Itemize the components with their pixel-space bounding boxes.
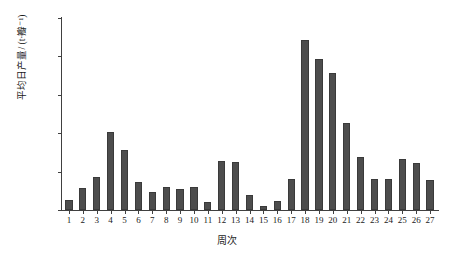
bar	[301, 40, 308, 210]
bar	[218, 161, 225, 210]
x-tick-label: 11	[201, 215, 215, 225]
bar	[329, 73, 336, 210]
x-tick-mark	[152, 211, 153, 214]
bar	[343, 123, 350, 210]
x-tick-mark	[319, 211, 320, 214]
x-axis-title: 周次	[0, 232, 453, 247]
x-tick-mark	[416, 211, 417, 214]
x-tick-label: 3	[90, 215, 104, 225]
x-tick-label: 2	[76, 215, 90, 225]
x-tick-mark	[166, 211, 167, 214]
x-tick-label: 23	[368, 215, 382, 225]
x-tick-mark	[69, 211, 70, 214]
x-tick-mark	[305, 211, 306, 214]
bar	[246, 195, 253, 210]
y-tick-mark	[58, 18, 62, 19]
bar	[426, 180, 433, 210]
bar	[371, 179, 378, 210]
x-tick-label: 14	[243, 215, 257, 225]
x-tick-mark	[194, 211, 195, 214]
bar	[149, 192, 156, 210]
bar	[65, 200, 72, 210]
x-tick-label: 24	[381, 215, 395, 225]
x-tick-label: 10	[187, 215, 201, 225]
bar	[288, 179, 295, 210]
bar	[385, 179, 392, 210]
bar	[176, 189, 183, 210]
x-tick-label: 8	[159, 215, 173, 225]
bar	[232, 162, 239, 210]
bar-chart: 平均日产量/ (t·瓣⁻¹) 0.005.0010.0015.0020.0025…	[0, 0, 453, 254]
x-tick-label: 4	[104, 215, 118, 225]
bar	[79, 188, 86, 210]
x-tick-mark	[250, 211, 251, 214]
x-tick-label: 5	[118, 215, 132, 225]
y-axis-title: 平均日产量/ (t·瓣⁻¹)	[14, 0, 28, 122]
x-tick-mark	[291, 211, 292, 214]
x-tick-mark	[83, 211, 84, 214]
x-tick-mark	[222, 211, 223, 214]
bar	[413, 163, 420, 210]
x-tick-mark	[333, 211, 334, 214]
bar	[357, 157, 364, 210]
x-tick-mark	[430, 211, 431, 214]
x-tick-label: 13	[229, 215, 243, 225]
x-tick-mark	[277, 211, 278, 214]
x-tick-label: 21	[340, 215, 354, 225]
y-tick-mark	[58, 133, 62, 134]
x-tick-mark	[138, 211, 139, 214]
y-tick-mark	[58, 56, 62, 57]
x-tick-label: 19	[312, 215, 326, 225]
x-tick-mark	[236, 211, 237, 214]
x-tick-label: 22	[354, 215, 368, 225]
x-tick-label: 1	[62, 215, 76, 225]
bar	[163, 187, 170, 210]
x-tick-mark	[208, 211, 209, 214]
plot-area: 0.005.0010.0015.0020.0025.00	[62, 18, 437, 210]
x-tick-mark	[388, 211, 389, 214]
bar	[315, 59, 322, 210]
x-tick-label: 7	[145, 215, 159, 225]
x-tick-label: 9	[173, 215, 187, 225]
x-tick-label: 25	[395, 215, 409, 225]
x-tick-mark	[402, 211, 403, 214]
bar	[121, 150, 128, 210]
y-tick-mark	[58, 95, 62, 96]
x-tick-label: 27	[423, 215, 437, 225]
x-tick-mark	[180, 211, 181, 214]
x-tick-label: 16	[270, 215, 284, 225]
x-tick-mark	[347, 211, 348, 214]
x-tick-mark	[97, 211, 98, 214]
x-tick-mark	[111, 211, 112, 214]
x-tick-mark	[361, 211, 362, 214]
x-tick-label: 12	[215, 215, 229, 225]
bar	[274, 201, 281, 210]
x-tick-label: 18	[298, 215, 312, 225]
bar	[190, 187, 197, 210]
x-tick-mark	[125, 211, 126, 214]
x-tick-label: 26	[409, 215, 423, 225]
bar	[107, 132, 114, 210]
bar	[399, 159, 406, 210]
x-tick-label: 6	[131, 215, 145, 225]
y-tick-mark	[58, 172, 62, 173]
bar	[135, 182, 142, 210]
x-tick-mark	[375, 211, 376, 214]
x-tick-label: 20	[326, 215, 340, 225]
x-tick-mark	[263, 211, 264, 214]
bar	[204, 202, 211, 210]
bar	[260, 206, 267, 210]
x-axis-ticks: 1234567891011121314151617181920212223242…	[62, 211, 437, 231]
x-tick-label: 15	[256, 215, 270, 225]
bar	[93, 177, 100, 210]
x-tick-label: 17	[284, 215, 298, 225]
